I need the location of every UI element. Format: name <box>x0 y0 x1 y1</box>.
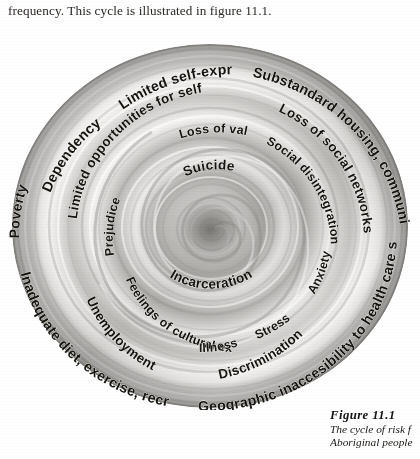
figure-11-1-spiral-diagram: Poverty Dependency Limited self-expressi… <box>0 30 420 410</box>
figure-caption-line-1: The cycle of risk f <box>330 423 420 436</box>
figure-caption: Figure 11.1 The cycle of risk f Aborigin… <box>330 408 420 450</box>
figure-caption-line-2: Aboriginal people <box>330 436 420 449</box>
textbook-page: { "page": { "background_color": "#ffffff… <box>0 0 420 459</box>
figure-number: Figure 11.1 <box>330 408 420 423</box>
body-paragraph-text: frequency. This cycle is illustrated in … <box>8 2 412 19</box>
